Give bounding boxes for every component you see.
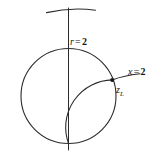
smith-chart-diagram — [0, 0, 168, 160]
x-arc-label: x=2 — [128, 67, 146, 77]
r-circle-label: r=2 — [70, 37, 87, 47]
z-subscript-l: L — [120, 90, 124, 98]
r-value: 2 — [82, 36, 87, 47]
x-symbol: x — [128, 66, 133, 77]
top-arc — [47, 9, 96, 13]
r-equals-sign: = — [74, 36, 82, 47]
x-constant-arc — [66, 80, 113, 144]
load-point-label: zL — [116, 85, 124, 98]
figure-container: r=2 x=2 zL — [0, 0, 168, 160]
load-point-marker — [110, 78, 114, 82]
x-value: 2 — [140, 66, 145, 77]
